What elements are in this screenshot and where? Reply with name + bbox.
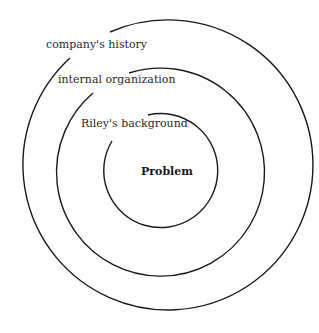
ring-label-internal-organization: internal organization [58, 73, 176, 86]
center-label-problem: Problem [141, 165, 193, 178]
ring-label-riley-background: Riley's background [81, 117, 188, 130]
ring-label-company-history: company's history [46, 38, 147, 51]
